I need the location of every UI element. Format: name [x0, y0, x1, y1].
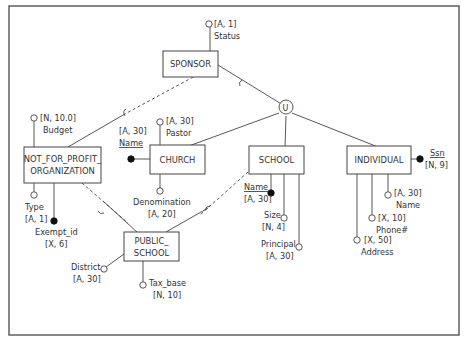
subset-icon	[239, 80, 242, 86]
union-label: U	[283, 104, 289, 113]
attr-domain: [A, 30]	[244, 194, 272, 204]
attr-domain: [A, 30]	[73, 274, 101, 284]
entity-label: NOT_FOR_PROFIT_	[24, 154, 102, 164]
attr-optional-icon	[296, 244, 302, 250]
attr-optional-icon	[354, 237, 360, 243]
attr-domain: [A, 1]	[214, 19, 236, 29]
attr-domain: [N, 9]	[425, 160, 448, 170]
union-school-line	[285, 116, 286, 147]
attr-domain: [A, 30]	[266, 251, 294, 261]
attr-domain: [A, 30]	[166, 116, 194, 126]
attr-optional-icon	[206, 21, 212, 27]
attr-name: Status	[214, 31, 240, 41]
attr-optional-icon	[157, 188, 163, 194]
attr-name: Pastor	[166, 128, 192, 138]
attr-optional-icon	[101, 266, 107, 272]
subset-icon	[124, 109, 126, 116]
attr-optional-icon	[385, 192, 391, 198]
attr-optional-icon	[140, 282, 146, 288]
attr-domain: [X, 6]	[45, 239, 67, 249]
attr-name: Size	[264, 210, 281, 220]
attr-required-icon	[51, 218, 57, 224]
nfpo-sponsor-line	[68, 115, 123, 147]
attr-optional-icon	[157, 119, 163, 125]
entity-label: PUBLIC_	[134, 236, 169, 246]
attr-name: Budget	[43, 125, 73, 135]
entity-not-for-profit-organization[interactable]	[24, 147, 101, 183]
attr-domain: [A, 30]	[119, 126, 147, 136]
attr-optional-icon	[281, 215, 287, 221]
entity-label: SCHOOL	[259, 155, 295, 165]
attr-name: Name	[396, 200, 420, 210]
attr-domain: [A, 1]	[25, 214, 47, 224]
attr-name: Principal	[261, 239, 296, 249]
attr-domain: [X, 50]	[364, 235, 392, 245]
entity-label: ORGANIZATION	[30, 166, 95, 176]
attr-domain: [N, 10.0]	[40, 113, 76, 123]
entity-label: SPONSOR	[170, 59, 211, 69]
attr-name: Address	[361, 247, 394, 257]
eer-diagram: U [A, 1] Status SPONSOR NOT_FOR_PROFIT_ …	[0, 0, 466, 345]
attr-key-name: Name	[244, 182, 268, 192]
entity-label: SCHOOL	[134, 248, 170, 258]
attr-domain: [A, 30]	[394, 188, 422, 198]
attr-line	[106, 254, 124, 267]
attr-name: Exempt_id	[35, 227, 78, 237]
attr-name: Type	[24, 202, 44, 212]
union-church-line	[186, 113, 279, 147]
attr-name: Phone#	[376, 225, 408, 235]
attr-name: District	[71, 262, 101, 272]
attr-optional-icon	[31, 192, 37, 198]
sponsor-union-line	[218, 65, 283, 105]
attr-domain: [N, 10]	[153, 290, 181, 300]
attr-name: Tax_base	[148, 278, 186, 288]
attr-domain: [A, 20]	[148, 209, 176, 219]
attr-key-name: Ssn	[430, 148, 445, 158]
entity-label: CHURCH	[160, 155, 196, 165]
attr-optional-icon	[31, 115, 37, 121]
attr-domain: [X, 10]	[378, 213, 406, 223]
attr-key-icon	[417, 156, 423, 162]
attr-name: Denomination	[133, 197, 191, 207]
nfpo-ps-line	[103, 201, 137, 232]
attr-optional-icon	[369, 215, 375, 221]
attr-domain: [N, 4]	[262, 222, 285, 232]
subset-icon	[98, 211, 104, 214]
union-individual-line	[292, 113, 378, 147]
attr-key-icon	[128, 156, 134, 162]
attr-key-name: Name	[119, 138, 143, 148]
entity-label: INDIVIDUAL	[355, 155, 404, 165]
